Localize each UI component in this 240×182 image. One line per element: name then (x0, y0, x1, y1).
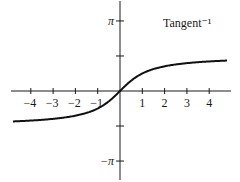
y-tick-label: −π (100, 154, 115, 168)
x-tick-label: 1 (139, 96, 145, 110)
x-tick-label: −3 (46, 96, 59, 110)
x-tick-label: −4 (23, 96, 36, 110)
arctan-chart: −4−3−2−11234 π−π Tangent⁻¹ (0, 0, 240, 182)
x-tick-label: 3 (184, 96, 190, 110)
chart-title: Tangent⁻¹ (163, 16, 212, 30)
x-tick-label: −2 (68, 96, 81, 110)
x-tick-label: 4 (206, 96, 212, 110)
x-tick-label: 2 (162, 96, 168, 110)
y-tick-label: π (108, 14, 115, 28)
